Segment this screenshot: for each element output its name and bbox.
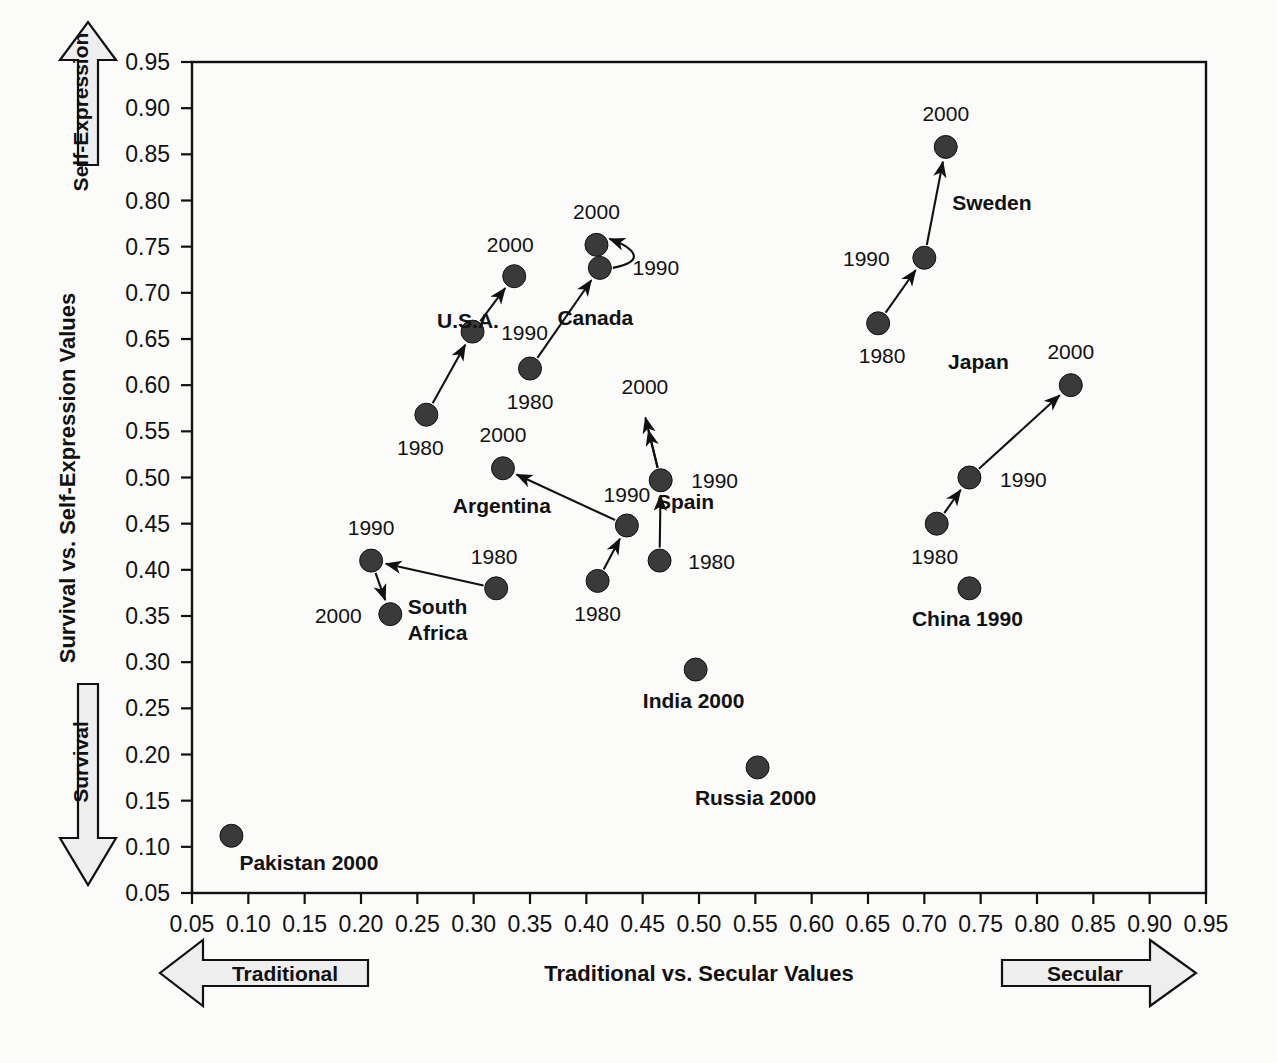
series-sweden: 198019902000Sweden (843, 102, 1032, 367)
y-tick-label: 0.05 (125, 880, 170, 906)
single-point-china-1990: China 1990 (912, 577, 1023, 631)
y-tick-label: 0.60 (125, 372, 170, 398)
series-layer: 198019902000U.S.A.198019902000Canada1980… (315, 102, 1094, 644)
data-point (648, 549, 671, 572)
data-point (519, 357, 542, 380)
x-tick-label: 0.80 (1015, 911, 1060, 937)
year-label: 2000 (1047, 340, 1094, 363)
year-label: 1990 (348, 516, 395, 539)
survival-arrow-label: Survival (69, 721, 92, 803)
data-point (503, 265, 526, 288)
data-point (379, 603, 402, 626)
data-point (649, 469, 672, 492)
y-tick-label: 0.10 (125, 834, 170, 860)
data-point (360, 549, 383, 572)
y-tick-label: 0.25 (125, 695, 170, 721)
single-point-label: China 1990 (912, 607, 1023, 630)
y-tick-label: 0.40 (125, 557, 170, 583)
x-tick-label: 0.50 (677, 911, 722, 937)
x-tick-label: 0.75 (958, 911, 1003, 937)
y-tick-label: 0.55 (125, 418, 170, 444)
year-label: 1980 (688, 550, 735, 573)
trend-arrow (604, 539, 620, 570)
y-tick-label: 0.15 (125, 788, 170, 814)
country-label: Argentina (453, 494, 551, 517)
trend-arrow (376, 573, 386, 600)
y-tick-label: 0.75 (125, 234, 170, 260)
survival-arrow: Survival (60, 684, 116, 885)
year-label: 2000 (487, 233, 534, 256)
year-label: 1980 (574, 602, 621, 625)
x-axis-title: Traditional vs. Secular Values (544, 961, 853, 986)
data-point (684, 658, 707, 681)
single-point-india-2000: India 2000 (643, 658, 745, 712)
x-tick-label: 0.35 (508, 911, 553, 937)
trend-arrow (944, 490, 960, 513)
year-label: 1990 (501, 321, 548, 344)
year-label: 1980 (471, 545, 518, 568)
x-tick-label: 0.20 (339, 911, 384, 937)
year-label: 1980 (507, 390, 554, 413)
year-label: 2000 (622, 375, 669, 398)
single-point-pakistan-2000: Pakistan 2000 (220, 824, 378, 874)
single-point-label: India 2000 (643, 689, 745, 712)
single-point-label: Russia 2000 (695, 786, 816, 809)
trend-arrow (927, 162, 943, 245)
self-expression-arrow-label: Self-Expression (69, 33, 92, 192)
country-label: Africa (408, 621, 468, 644)
country-label: South (408, 595, 467, 618)
series-spain: 198019902000Spain (622, 375, 738, 573)
single-point-label: Pakistan 2000 (239, 851, 378, 874)
data-point (746, 756, 769, 779)
year-label: 1990 (632, 256, 679, 279)
y-tick-label: 0.85 (125, 141, 170, 167)
trend-arrow (433, 345, 466, 404)
x-tick-label: 0.65 (846, 911, 891, 937)
series-south-africa: 198019902000SouthAfrica (315, 516, 518, 645)
x-tick-label: 0.40 (564, 911, 609, 937)
year-label: 1980 (397, 436, 444, 459)
trend-arrow (886, 270, 916, 313)
x-tick-label: 0.90 (1127, 911, 1172, 937)
data-point (585, 233, 608, 256)
series-japan: 198019902000Japan (911, 340, 1094, 568)
year-label: 2000 (480, 423, 527, 446)
x-tick-label: 0.15 (282, 911, 327, 937)
y-tick-label: 0.90 (125, 95, 170, 121)
secular-arrow-label: Secular (1047, 962, 1123, 985)
secular-arrow: Secular (1002, 940, 1196, 1006)
country-label: U.S.A. (437, 309, 499, 332)
scatter-chart: 0.050.100.150.200.250.300.350.400.450.50… (0, 0, 1277, 1063)
y-tick-label: 0.30 (125, 649, 170, 675)
x-tick-label: 0.55 (733, 911, 778, 937)
self-expression-arrow: Self-Expression (60, 22, 116, 191)
x-tick-label: 0.25 (395, 911, 440, 937)
year-label: 1980 (859, 344, 906, 367)
country-label: Japan (948, 350, 1009, 373)
year-label: 2000 (922, 102, 969, 125)
data-point (415, 403, 438, 426)
y-axis-title: Survival vs. Self-Expression Values (55, 293, 80, 664)
country-label: Canada (557, 306, 633, 329)
year-label: 2000 (315, 604, 362, 627)
data-point (615, 514, 638, 537)
x-tick-label: 0.60 (789, 911, 834, 937)
trend-arrow (979, 395, 1060, 468)
year-label: 1990 (691, 469, 738, 492)
data-point (588, 256, 611, 279)
series-argentina: 198019902000Argentina (453, 423, 650, 625)
traditional-arrow: Traditional (160, 940, 368, 1006)
data-point (586, 569, 609, 592)
x-axis-ticks: 0.050.100.150.200.250.300.350.400.450.50… (170, 893, 1229, 937)
y-tick-label: 0.65 (125, 326, 170, 352)
data-point (1059, 374, 1082, 397)
data-point (491, 457, 514, 480)
trend-arrow (386, 564, 484, 586)
year-label: 1990 (1000, 468, 1047, 491)
year-label: 2000 (573, 200, 620, 223)
x-tick-label: 0.95 (1184, 911, 1229, 937)
country-label: Sweden (952, 191, 1031, 214)
data-point (485, 577, 508, 600)
y-tick-label: 0.35 (125, 603, 170, 629)
single-point-russia-2000: Russia 2000 (695, 756, 816, 810)
